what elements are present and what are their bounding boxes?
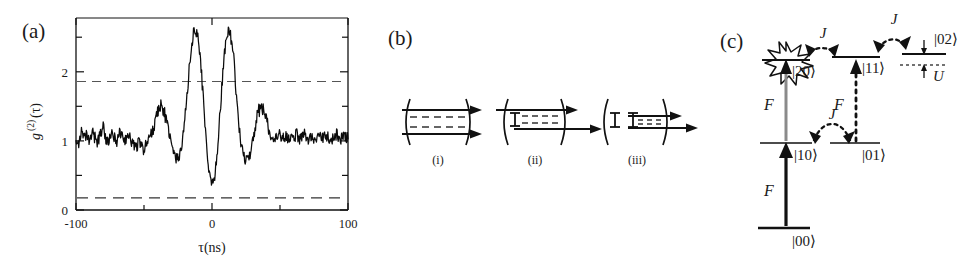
drive-arrow-00-10 [779, 142, 793, 226]
cavity-diagram-ii: (ii) [496, 99, 602, 167]
y-axis-title: g (2) (τ) [26, 103, 44, 140]
panel-b-label: (b) [388, 26, 413, 50]
diagram-label-ii: (ii) [528, 153, 543, 167]
state-label-20: |20⟩ [792, 63, 816, 79]
emitter-i-bar-iii-1 [610, 113, 620, 127]
beam-arrow-lower-iii [686, 124, 698, 133]
mirror-right-ii [561, 99, 565, 145]
drive-arrow-10-20 [780, 59, 792, 141]
coupling-label-J-20-11: J [820, 25, 828, 41]
y-tick-0: 0 [62, 203, 69, 218]
hop-arrowhead-right-20-11 [828, 44, 839, 57]
coupling-label-J-11-02: J [891, 11, 899, 27]
state-label-01: |01⟩ [862, 147, 886, 163]
state-label-11: |11⟩ [862, 60, 885, 76]
mirror-right-i [466, 99, 470, 145]
hop-arc-20-11 [805, 44, 839, 57]
panel-c-label: (c) [720, 29, 743, 53]
beam-arrow-lower-i [470, 130, 482, 139]
hop-arc-11-02 [873, 36, 911, 53]
panel-c-svg: (c) F F [710, 0, 978, 264]
y-axis-title-arg: (τ) [28, 103, 44, 118]
emitter-i-bar-ii [510, 113, 520, 126]
cavity-diagram-i: (i) [402, 99, 482, 167]
mirror-right-iii [663, 99, 667, 145]
hop-arrowhead-right-10-01 [843, 131, 855, 144]
panel-a-svg: (a) [0, 0, 380, 264]
diagram-label-iii: (iii) [628, 153, 646, 167]
hop-arrowhead-left-10-01 [809, 131, 821, 144]
x-tick-mid: 0 [209, 217, 215, 231]
mode-lines-i [410, 117, 466, 127]
mirror-left-i [406, 99, 410, 145]
mirror-left-iii [604, 99, 608, 145]
g2-data-trace [76, 27, 348, 185]
mode-lines-iii [638, 120, 663, 124]
beam-arrow-lower-ii [590, 125, 602, 134]
cavity-diagram-iii: (iii) [604, 99, 698, 167]
coupling-label-F-00-10: F [763, 182, 774, 199]
y-axis-title-sup: (2) [26, 120, 37, 131]
anharmonicity-label-U: U [933, 68, 945, 84]
mode-lines-ii [522, 116, 561, 123]
state-label-02: |02⟩ [934, 31, 958, 47]
beam-arrow-upper-ii [566, 106, 578, 115]
diagram-label-i: (i) [432, 153, 443, 167]
coupling-label-F-10-20: F [763, 96, 774, 113]
figure-container: (a) [0, 0, 978, 264]
x-tick-max: 100 [339, 217, 358, 231]
state-label-00: |00⟩ [792, 233, 816, 249]
beam-arrow-upper-i [470, 106, 482, 115]
anharmonicity-marker-U [921, 40, 927, 78]
panel-a-correlation-plot: (a) [0, 0, 380, 264]
hop-arc-10-01 [809, 124, 855, 144]
panel-c-level-diagram: (c) F F [710, 0, 978, 264]
x-tick-min: -100 [65, 217, 88, 231]
y-axis-title-g: g [28, 133, 43, 140]
y-tick-2: 2 [62, 65, 69, 80]
x-axis-title: τ(ns) [198, 240, 226, 256]
hop-arrowhead-right-11-02 [899, 36, 911, 50]
panel-a-label: (a) [22, 19, 45, 43]
panel-b-svg: (b) (i) [380, 0, 710, 264]
mirror-left-ii [504, 99, 508, 145]
panel-b-cavity-diagrams: (b) (i) [380, 0, 710, 264]
beam-arrow-upper-iii [670, 112, 682, 121]
y-tick-1: 1 [62, 134, 69, 149]
state-label-10: |10⟩ [794, 147, 818, 163]
drive-arrow-01-11 [850, 59, 862, 141]
